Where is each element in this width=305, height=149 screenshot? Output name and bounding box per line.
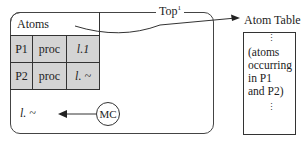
connector-arrows: [0, 0, 305, 149]
top-to-atom-table-arrow: [75, 18, 236, 33]
arrowhead-icon: [58, 110, 67, 118]
arrowhead-icon: [231, 15, 240, 22]
